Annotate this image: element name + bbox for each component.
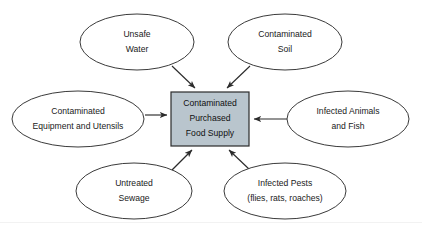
node-unsafe-water[interactable]: Unsafe Water xyxy=(80,14,194,70)
infected-pests-shape xyxy=(224,163,346,219)
contaminated-equipment-label-line-1: Contaminated xyxy=(51,106,105,116)
infected-animals-shape xyxy=(287,91,409,147)
contaminated-soil-label-line-2: Soil xyxy=(278,44,292,54)
infected-animals-label-line-2: and Fish xyxy=(332,121,365,131)
contaminated-equipment-label-line-2: Equipment and Utensils xyxy=(33,121,124,131)
infected-animals-label-line-1: Infected Animals xyxy=(316,106,379,116)
unsafe-water-shape xyxy=(80,14,194,70)
edge-unsafe-water-to-center xyxy=(172,66,195,88)
edge-infected-pests-to-center xyxy=(229,150,250,170)
unsafe-water-label-line-1: Unsafe xyxy=(123,29,150,39)
node-contaminated-equipment-and-utensils[interactable]: Contaminated Equipment and Utensils xyxy=(12,91,144,147)
node-contaminated-soil[interactable]: Contaminated Soil xyxy=(228,14,342,70)
center-label-line-3: Food Supply xyxy=(186,128,235,138)
center-label-line-1: Contaminated xyxy=(183,98,237,108)
untreated-sewage-label-line-2: Sewage xyxy=(118,193,149,203)
infected-pests-label-line-2: (flies, rats, roaches) xyxy=(247,193,323,203)
center-label-line-2: Purchased xyxy=(189,113,230,123)
contaminated-soil-shape xyxy=(228,14,342,70)
node-infected-pests[interactable]: Infected Pests (flies, rats, roaches) xyxy=(224,163,346,219)
diagram-canvas: Contaminated Purchased Food Supply Unsaf… xyxy=(0,0,422,229)
node-untreated-sewage[interactable]: Untreated Sewage xyxy=(76,163,192,219)
unsafe-water-label-line-2: Water xyxy=(126,44,149,54)
untreated-sewage-label-line-1: Untreated xyxy=(115,178,153,188)
diagram-svg: Contaminated Purchased Food Supply Unsaf… xyxy=(0,0,422,229)
contaminated-equipment-shape xyxy=(12,91,144,147)
node-contaminated-purchased-food-supply[interactable]: Contaminated Purchased Food Supply xyxy=(171,92,249,146)
edge-untreated-sewage-to-center xyxy=(172,150,192,170)
edge-contaminated-soil-to-center xyxy=(227,66,250,88)
node-infected-animals-and-fish[interactable]: Infected Animals and Fish xyxy=(287,91,409,147)
untreated-sewage-shape xyxy=(76,163,192,219)
infected-pests-label-line-1: Infected Pests xyxy=(258,178,312,188)
contaminated-soil-label-line-1: Contaminated xyxy=(258,29,312,39)
